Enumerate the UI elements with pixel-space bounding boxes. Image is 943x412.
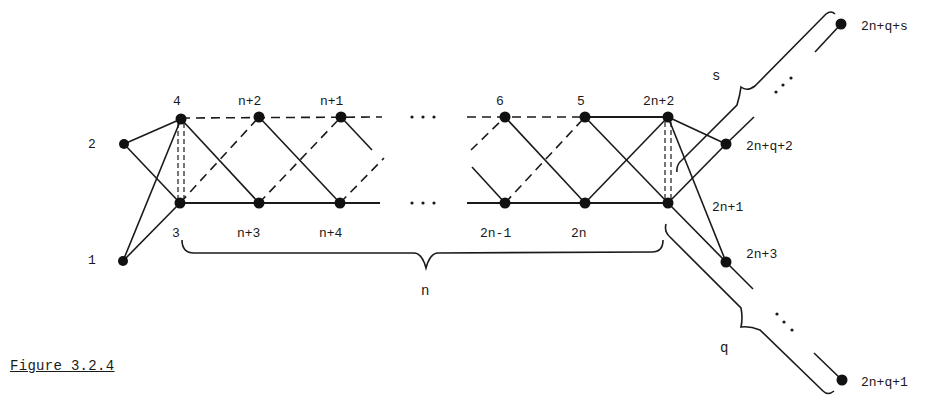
edge-stub-2n-1 (472, 167, 505, 203)
graph-figure: 1 2 3 4 n+2 n+1 n+3 n+4 6 5 2n+2 2n-1 2n… (0, 0, 943, 412)
label-node-2n+3: 2n+3 (746, 247, 777, 262)
ellipsis-bottom-dot (432, 201, 435, 204)
edge-n+4-stub (340, 158, 384, 203)
label-node-2n+1: 2n+1 (712, 200, 743, 215)
label-brace-n: n (421, 283, 429, 299)
label-node-2n: 2n (571, 226, 587, 241)
ellipsis-top-dot (421, 115, 424, 118)
node-n+3 (254, 198, 265, 209)
node-4 (176, 114, 187, 125)
ellipsis-q-dot (790, 328, 793, 331)
edge-stub-6 (471, 117, 505, 150)
node-n+2 (254, 112, 265, 123)
label-node-n+4: n+4 (319, 226, 343, 241)
ellipsis-q-dot (775, 312, 778, 315)
label-brace-s: s (712, 68, 720, 84)
label-node-2n+q+s: 2n+q+s (861, 19, 908, 34)
edge-2n+q+1-stub (814, 353, 842, 380)
label-node-2n+q+1: 2n+q+1 (861, 375, 908, 390)
edge-2n+3-stub (726, 262, 753, 289)
node-3 (175, 198, 186, 209)
figure-caption: Figure 3.2.4 (10, 358, 114, 374)
edge-2n+q+s-stub (815, 24, 841, 52)
label-node-n+1: n+1 (320, 94, 344, 109)
label-node-n+2: n+2 (238, 94, 261, 109)
ellipsis-s-dot (789, 76, 792, 79)
label-node-2: 2 (88, 137, 96, 152)
label-node-3: 3 (172, 226, 180, 241)
ellipsis-q-dot (782, 320, 785, 323)
node-2n+q+s (836, 19, 847, 30)
edge-top-rail-left (181, 117, 382, 118)
edge-2n+1-2n+q+2 (668, 144, 726, 203)
label-node-n+3: n+3 (237, 226, 260, 241)
edge-2n+2-2n+3 (668, 117, 726, 262)
brace-labels: n s q (421, 68, 728, 356)
ellipsis-top-dot (432, 115, 435, 118)
node-n+1 (336, 112, 347, 123)
node-2n+3 (721, 257, 732, 268)
node-2n (580, 198, 591, 209)
label-node-2n+2: 2n+2 (643, 94, 674, 109)
node-2n+1 (663, 198, 674, 209)
node-2n+q+2 (721, 139, 732, 150)
edge-2-3 (124, 144, 180, 203)
node-2n+2 (663, 112, 674, 123)
node-1 (118, 256, 128, 266)
node-5 (580, 112, 591, 123)
ellipsis-s-dot (781, 83, 784, 86)
label-node-5: 5 (577, 94, 585, 109)
edge-4-n+3 (181, 119, 259, 203)
label-node-4: 4 (173, 94, 181, 109)
edge-n+1-stub (341, 117, 372, 150)
label-node-1: 1 (88, 253, 96, 268)
label-node-2n+q+2: 2n+q+2 (746, 139, 793, 154)
node-labels: 1 2 3 4 n+2 n+1 n+3 n+4 6 5 2n+2 2n-1 2n… (88, 19, 908, 390)
ellipsis-bottom-dot (421, 201, 424, 204)
node-n+4 (335, 198, 346, 209)
node-2n+q+1 (837, 375, 848, 386)
label-node-2n-1: 2n-1 (480, 226, 511, 241)
node-6 (500, 112, 511, 123)
label-node-6: 6 (496, 94, 504, 109)
label-brace-q: q (720, 340, 728, 356)
ellipsis-s-dot (774, 90, 777, 93)
ellipsis-top-dot (410, 115, 413, 118)
node-2 (119, 139, 129, 149)
node-2n-1 (500, 198, 511, 209)
ellipsis-bottom-dot (410, 201, 413, 204)
brace-n (182, 240, 663, 268)
